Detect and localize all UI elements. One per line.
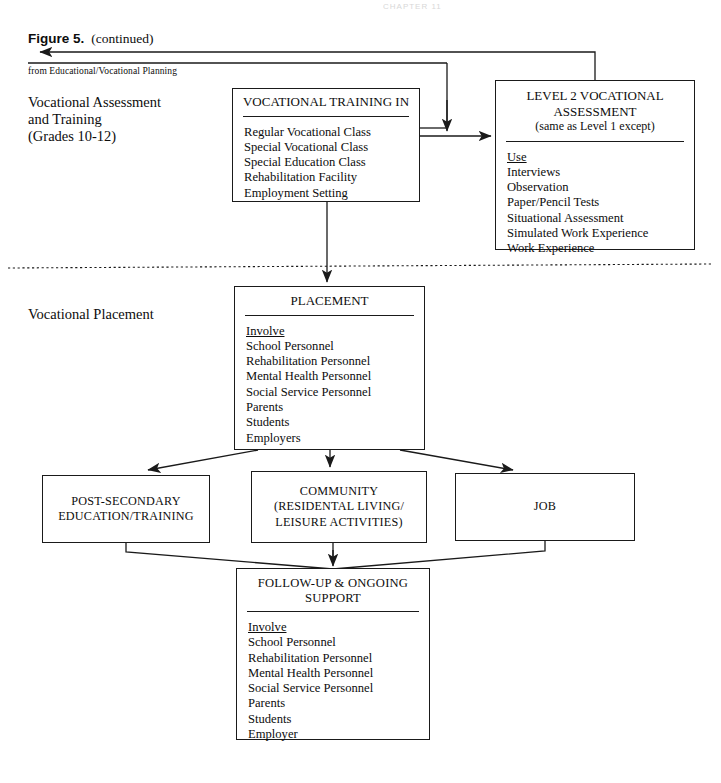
list-item: Simulated Work Experience xyxy=(507,226,694,241)
list-item: Mental Health Personnel xyxy=(246,369,424,384)
list-item: Regular Vocational Class xyxy=(244,125,419,140)
list-item: Interviews xyxy=(507,165,694,180)
box-level2-title-line2: ASSESSMENT xyxy=(502,104,688,120)
figure-continued: (continued) xyxy=(91,31,153,46)
box-level2-list: Use Interviews Observation Paper/Pencil … xyxy=(496,146,694,263)
figure-number: Figure 5. xyxy=(28,31,84,46)
figure-caption: Figure 5.(continued) xyxy=(28,30,154,47)
box-vocational-training-title: VOCATIONAL TRAINING IN xyxy=(233,89,419,114)
title-rule xyxy=(506,141,684,142)
list-item: Special Vocational Class xyxy=(244,140,419,155)
box-community: COMMUNITY (RESIDENTAL LIVING/ LEISURE AC… xyxy=(251,471,427,543)
box-job-text: JOB xyxy=(456,474,634,540)
box-level2-assessment: LEVEL 2 VOCATIONAL ASSESSMENT (same as L… xyxy=(495,80,695,250)
list-item: Observation xyxy=(507,180,694,195)
list-item: Employers xyxy=(246,431,424,446)
box-community-line3: LEISURE ACTIVITIES) xyxy=(274,515,404,531)
box-followup-support: FOLLOW-UP & ONGOING SUPPORT Involve Scho… xyxy=(236,568,430,740)
stage-label-assessment-line3: (Grades 10-12) xyxy=(28,128,161,145)
from-note: from Educational/Vocational Planning xyxy=(28,66,177,76)
list-item: Employer xyxy=(248,727,429,742)
list-header: Involve xyxy=(248,620,429,635)
wire-job-to-followup xyxy=(333,541,545,569)
box-placement-list: Involve School Personnel Rehabilitation … xyxy=(235,320,424,452)
wire-post-to-followup xyxy=(126,543,333,569)
box-followup-title-line1: FOLLOW-UP & ONGOING xyxy=(241,576,425,591)
list-item: Rehabilitation Personnel xyxy=(246,354,424,369)
box-level2-title-line3: (same as Level 1 except) xyxy=(502,119,688,135)
list-item: Special Education Class xyxy=(244,155,419,170)
list-item: Work Experience xyxy=(507,241,694,256)
list-item: Students xyxy=(246,415,424,430)
section-divider-dotted xyxy=(8,264,713,268)
list-item: Social Service Personnel xyxy=(248,681,429,696)
figure-canvas: CHAPTER 11 Figure 5.(continued) from Edu… xyxy=(0,0,721,783)
box-followup-support-title: FOLLOW-UP & ONGOING SUPPORT xyxy=(237,569,429,609)
list-item: Students xyxy=(248,712,429,727)
box-placement-title: PLACEMENT xyxy=(235,287,424,313)
box-community-line1: COMMUNITY xyxy=(274,484,404,500)
box-job: JOB xyxy=(455,473,635,541)
title-rule xyxy=(247,611,419,612)
box-post-secondary: POST-SECONDARY EDUCATION/TRAINING xyxy=(42,475,210,543)
list-item: School Personnel xyxy=(248,635,429,650)
box-vocational-training: VOCATIONAL TRAINING IN Regular Vocationa… xyxy=(232,88,420,202)
wire-placement-to-job xyxy=(400,450,513,470)
list-item: Situational Assessment xyxy=(507,211,694,226)
box-post-secondary-text: POST-SECONDARY EDUCATION/TRAINING xyxy=(43,476,209,542)
box-job-line1: JOB xyxy=(534,499,556,515)
page-header-faint: CHAPTER 11 xyxy=(383,2,603,11)
title-rule xyxy=(245,315,414,316)
list-item: Paper/Pencil Tests xyxy=(507,195,694,210)
list-item: Social Service Personnel xyxy=(246,385,424,400)
box-community-line2: (RESIDENTAL LIVING/ xyxy=(274,499,404,515)
list-item: Employment Setting xyxy=(244,186,419,201)
box-community-text: COMMUNITY (RESIDENTAL LIVING/ LEISURE AC… xyxy=(252,472,426,542)
box-post-secondary-line2: EDUCATION/TRAINING xyxy=(58,509,194,525)
stage-label-assessment: Vocational Assessment and Training (Grad… xyxy=(28,94,161,145)
list-item: Rehabilitation Personnel xyxy=(248,651,429,666)
box-vocational-training-list: Regular Vocational Class Special Vocatio… xyxy=(233,121,419,207)
list-header: Use xyxy=(507,150,694,165)
stage-label-assessment-line2: and Training xyxy=(28,111,161,128)
list-item: Mental Health Personnel xyxy=(248,666,429,681)
box-placement: PLACEMENT Involve School Personnel Rehab… xyxy=(234,286,425,450)
box-level2-assessment-title: LEVEL 2 VOCATIONAL ASSESSMENT (same as L… xyxy=(496,81,694,139)
stage-label-placement: Vocational Placement xyxy=(28,306,154,323)
box-level2-title-line1: LEVEL 2 VOCATIONAL xyxy=(502,88,688,104)
box-followup-list: Involve School Personnel Rehabilitation … xyxy=(237,616,429,748)
list-item: Parents xyxy=(246,400,424,415)
list-item: Parents xyxy=(248,696,429,711)
list-item: School Personnel xyxy=(246,339,424,354)
box-followup-title-line2: SUPPORT xyxy=(241,591,425,606)
box-post-secondary-line1: POST-SECONDARY xyxy=(58,494,194,510)
stage-label-assessment-line1: Vocational Assessment xyxy=(28,94,161,111)
wire-placement-to-post xyxy=(148,450,258,470)
title-rule xyxy=(243,116,409,117)
list-header: Involve xyxy=(246,324,424,339)
list-item: Rehabilitation Facility xyxy=(244,170,419,185)
